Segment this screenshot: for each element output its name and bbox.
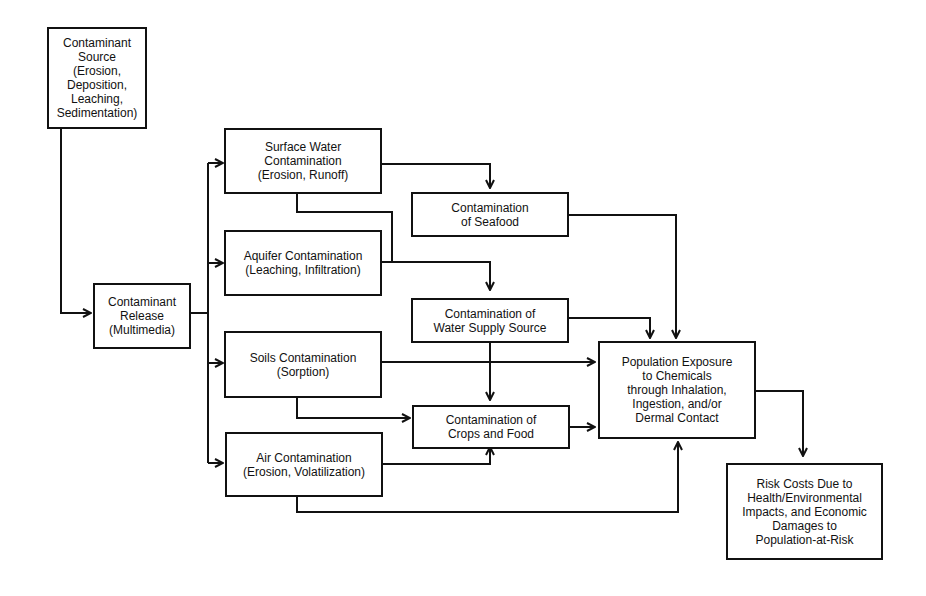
seafood-box: Contamination of Seafood [411, 192, 569, 237]
water-supply-label: Contamination of Water Supply Source [434, 307, 547, 335]
air-box: Air Contamination (Erosion, Volatilizati… [225, 432, 383, 497]
air-label: Air Contamination (Erosion, Volatilizati… [243, 451, 365, 479]
surface-water-box: Surface Water Contamination (Erosion, Ru… [224, 128, 382, 194]
population-exposure-label: Population Exposure to Chemicals through… [622, 355, 733, 425]
contaminant-release-box: Contaminant Release (Multimedia) [93, 283, 191, 349]
population-exposure-box: Population Exposure to Chemicals through… [598, 341, 756, 439]
soils-label: Soils Contamination (Sorption) [250, 351, 357, 379]
water-supply-box: Contamination of Water Supply Source [411, 298, 569, 343]
risk-costs-box: Risk Costs Due to Health/Environmental I… [726, 463, 883, 560]
contaminant-source-label: Contaminant Source (Erosion, Deposition,… [53, 36, 141, 120]
crops-label: Contamination of Crops and Food [446, 413, 537, 441]
surface-water-label: Surface Water Contamination (Erosion, Ru… [258, 140, 349, 182]
soils-box: Soils Contamination (Sorption) [224, 331, 382, 398]
contaminant-release-label: Contaminant Release (Multimedia) [108, 295, 176, 337]
crops-box: Contamination of Crops and Food [412, 405, 570, 449]
aquifer-box: Aquifer Contamination (Leaching, Infiltr… [224, 230, 382, 296]
risk-costs-label: Risk Costs Due to Health/Environmental I… [742, 477, 867, 547]
seafood-label: Contamination of Seafood [451, 201, 528, 229]
aquifer-label: Aquifer Contamination (Leaching, Infiltr… [244, 249, 363, 277]
contaminant-source-box: Contaminant Source (Erosion, Deposition,… [47, 27, 147, 129]
